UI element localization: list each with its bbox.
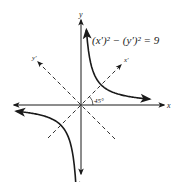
x-prime-axis-label: x′ — [123, 56, 129, 64]
diagram-canvas: x y x′ y′ 45° (x′)² − (y′)² = 9 — [0, 0, 179, 182]
hyperbola-branch-lower-left — [16, 111, 76, 182]
y-prime-axis-label: y′ — [31, 54, 37, 62]
angle-arc — [90, 97, 94, 106]
x-axis-label: x — [166, 101, 171, 110]
equation-label: (x′)² − (y′)² = 9 — [92, 34, 160, 47]
x-prime-axis — [48, 65, 121, 138]
y-axis-label: y — [78, 10, 83, 19]
angle-label: 45° — [94, 97, 104, 105]
